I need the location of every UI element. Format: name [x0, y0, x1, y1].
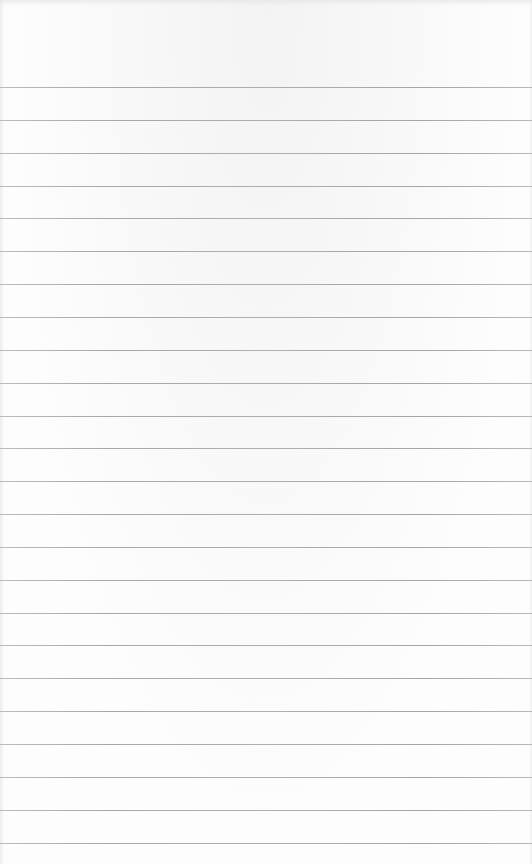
ruled-line — [0, 448, 532, 449]
ruled-line — [0, 481, 532, 482]
ruled-line — [0, 843, 532, 844]
ruled-line — [0, 547, 532, 548]
ruled-line — [0, 580, 532, 581]
ruled-line — [0, 711, 532, 712]
ruled-line — [0, 810, 532, 811]
ruled-line — [0, 744, 532, 745]
ruled-line — [0, 120, 532, 121]
ruled-line — [0, 777, 532, 778]
ruled-line — [0, 678, 532, 679]
ruled-line — [0, 514, 532, 515]
ruled-line — [0, 251, 532, 252]
ruled-line — [0, 87, 532, 88]
paper-top-edge — [0, 0, 532, 6]
ruled-line — [0, 350, 532, 351]
lined-paper-page — [0, 0, 532, 864]
ruled-line — [0, 186, 532, 187]
ruled-line — [0, 416, 532, 417]
ruled-line — [0, 153, 532, 154]
ruled-line — [0, 317, 532, 318]
ruled-line — [0, 613, 532, 614]
ruled-line — [0, 383, 532, 384]
paper-left-edge — [0, 0, 4, 864]
ruled-line — [0, 645, 532, 646]
ruled-line — [0, 218, 532, 219]
ruled-line — [0, 284, 532, 285]
